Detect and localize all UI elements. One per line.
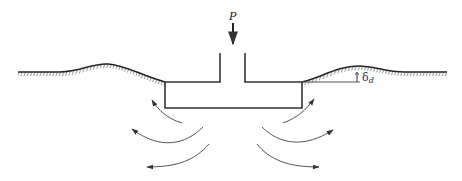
flow-arrow-right-2 [262,127,333,142]
flow-arrow-left-1 [152,100,182,123]
load-arrow-p: P [228,10,237,44]
flow-arrow-right-1 [283,99,314,123]
flow-arrow-left-2 [132,127,203,143]
delta-label: δd [362,71,374,85]
load-label: P [228,10,237,23]
ground-surface-right [302,66,447,86]
flow-arrow-right-3 [257,144,319,167]
footing [165,53,302,108]
soil-flow-arrows-left [132,100,209,167]
soil-flow-arrows-right [257,99,333,167]
footing-bearing-failure-diagram: P δd [0,0,462,181]
flow-arrow-left-3 [147,144,209,167]
ground-surface-left [18,64,165,86]
